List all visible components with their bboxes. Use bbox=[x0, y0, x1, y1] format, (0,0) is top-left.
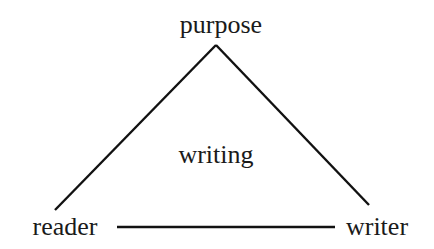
node-writing: writing bbox=[178, 140, 253, 169]
node-reader: reader bbox=[33, 212, 98, 241]
writing-triangle-diagram: purpose writing reader writer bbox=[0, 0, 434, 249]
edge-purpose-reader bbox=[55, 45, 216, 210]
node-purpose: purpose bbox=[180, 10, 262, 39]
node-writer: writer bbox=[346, 212, 408, 241]
edge-purpose-writer bbox=[216, 45, 369, 205]
